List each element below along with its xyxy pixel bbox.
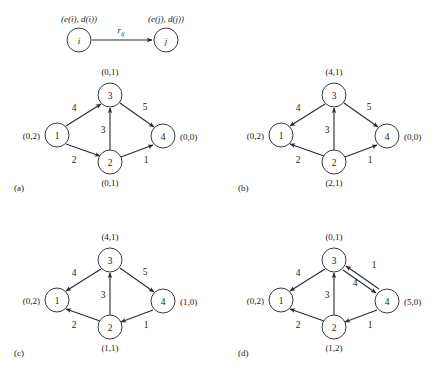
panel-d-node-3-id: 3 <box>332 256 337 266</box>
panel-a-weight-1-3: 4 <box>72 103 77 113</box>
panel-a-node-1-id: 1 <box>55 131 60 141</box>
graph-figure: (e(i), d(i)) (e(j), d(j)) i j rij 4 2 3 … <box>0 0 448 381</box>
panel-c-node-2-id: 2 <box>108 323 113 333</box>
panel-c-state-4: (1,0) <box>180 297 197 307</box>
panel-d-edge-3-4 <box>343 270 376 293</box>
panel-a-weight-2-3: 3 <box>101 125 106 135</box>
panel-b-weight-2-1: 2 <box>296 155 301 165</box>
legend-target-state: (e(j), d(j)) <box>148 14 184 24</box>
panel-b: 4 2 3 5 1 1 2 3 4 (0,2) (2,1) (4,1) (0,0… <box>238 67 421 193</box>
panel-c-state-2: (1,1) <box>101 343 118 353</box>
panel-d-state-1: (0,2) <box>247 296 264 306</box>
panel-b-node-3-id: 3 <box>332 91 337 101</box>
panel-b-state-1: (0,2) <box>247 131 264 141</box>
panel-a-state-1: (0,2) <box>23 131 40 141</box>
panel-b-node-2-id: 2 <box>332 158 337 168</box>
panel-a-edge-3-4 <box>120 103 154 127</box>
panel-d-node-2-id: 2 <box>332 323 337 333</box>
panel-d-weight-2-3: 3 <box>325 290 330 300</box>
panel-b-node-4-id: 4 <box>385 132 390 142</box>
panel-a-state-4: (0,0) <box>180 132 197 142</box>
panel-c-weight-4-2: 1 <box>144 320 149 330</box>
panel-b-weight-3-4: 5 <box>367 102 372 112</box>
panel-c-node-4-id: 4 <box>161 297 166 307</box>
legend-edge-weight: rij <box>117 25 124 37</box>
panel-c-weight-2-3: 3 <box>101 290 106 300</box>
panel-c-caption: (c) <box>14 348 24 358</box>
panel-d-weight-3-4: 4 <box>353 278 358 288</box>
panel-a-caption: (a) <box>14 183 24 193</box>
panel-c-node-3-id: 3 <box>108 256 113 266</box>
panel-b-weight-2-3: 3 <box>325 125 330 135</box>
panel-a-weight-1-2: 2 <box>72 155 77 165</box>
panel-b-weight-3-1: 4 <box>296 103 301 113</box>
legend-source-state: (e(i), d(i)) <box>61 14 97 24</box>
panel-d: 4 2 3 1 4 1 1 2 3 4 (0,2) (1,2) (0,1) (5… <box>238 232 421 358</box>
panel-c-edge-3-4 <box>120 268 154 292</box>
panel-d-weight-2-1: 2 <box>296 320 301 330</box>
panel-c-node-1-id: 1 <box>55 296 60 306</box>
panel-c-weight-3-1: 4 <box>72 268 77 278</box>
panel-c-state-3: (4,1) <box>101 232 118 242</box>
panel-a: 4 2 3 5 1 1 2 3 4 (0,2) (0,1) (0,1) (0,0… <box>14 67 197 193</box>
panel-a-state-2: (0,1) <box>101 178 118 188</box>
panel-d-node-4-id: 4 <box>385 297 390 307</box>
panel-d-weight-4-3: 1 <box>372 260 377 270</box>
panel-a-node-2-id: 2 <box>108 158 113 168</box>
panel-b-weight-2-4: 1 <box>368 155 373 165</box>
panel-d-caption: (d) <box>238 348 249 358</box>
panel-d-weight-4-2: 1 <box>368 320 373 330</box>
panel-d-state-2: (1,2) <box>325 343 342 353</box>
panel-c-state-1: (0,2) <box>23 296 40 306</box>
panel-d-state-4: (5,0) <box>404 297 421 307</box>
panel-b-state-4: (0,0) <box>404 132 421 142</box>
panel-b-state-2: (2,1) <box>325 178 342 188</box>
legend-group: (e(i), d(i)) (e(j), d(j)) i j rij <box>61 14 184 52</box>
panel-b-edge-3-4 <box>344 103 378 127</box>
panel-a-state-3: (0,1) <box>101 67 118 77</box>
panel-d-state-3: (0,1) <box>325 232 342 242</box>
legend-node-j-label: j <box>164 36 168 46</box>
panel-b-node-1-id: 1 <box>279 131 284 141</box>
panel-a-node-3-id: 3 <box>108 91 113 101</box>
panel-b-state-3: (4,1) <box>325 67 342 77</box>
panel-a-node-4-id: 4 <box>161 132 166 142</box>
panel-c-weight-3-4: 5 <box>143 267 148 277</box>
panel-d-weight-3-1: 4 <box>296 268 301 278</box>
panel-b-caption: (b) <box>238 183 249 193</box>
panel-a-weight-3-4: 5 <box>143 102 148 112</box>
panel-d-node-1-id: 1 <box>279 296 284 306</box>
panel-c-weight-2-1: 2 <box>72 320 77 330</box>
panel-a-weight-2-4: 1 <box>144 155 149 165</box>
panel-c: 4 2 3 5 1 1 2 3 4 (0,2) (1,1) (4,1) (1,0… <box>14 232 197 358</box>
